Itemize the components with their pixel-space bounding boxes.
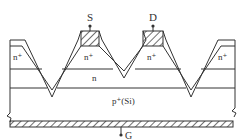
source-label: S [87,11,93,23]
mosfet-cross-section-diagram: S D n⁺ n⁺ n⁺ n⁺ n p⁺(Si) G [0,0,242,140]
region-label-n-plus-right: n⁺ [218,52,228,62]
region-label-n-plus-left: n⁺ [13,52,23,62]
gate-label: G [125,130,132,140]
region-label-substrate: p⁺(Si) [112,96,135,106]
right-break-mark [232,108,236,117]
source-terminal-dot [88,24,91,27]
gate-terminal-dot [119,133,122,136]
drain-terminal-dot [151,24,154,27]
gate-outer-contour [10,31,235,97]
region-label-n-plus-drain: n⁺ [147,52,157,62]
gate-inner-contour [10,46,235,90]
drain-contact-pad [143,31,163,46]
region-label-n-plus-source: n⁺ [84,52,94,62]
drain-label: D [149,11,157,23]
gate-electrode-bar [10,121,233,127]
source-contact-pad [81,31,99,46]
region-label-n: n [92,73,97,83]
